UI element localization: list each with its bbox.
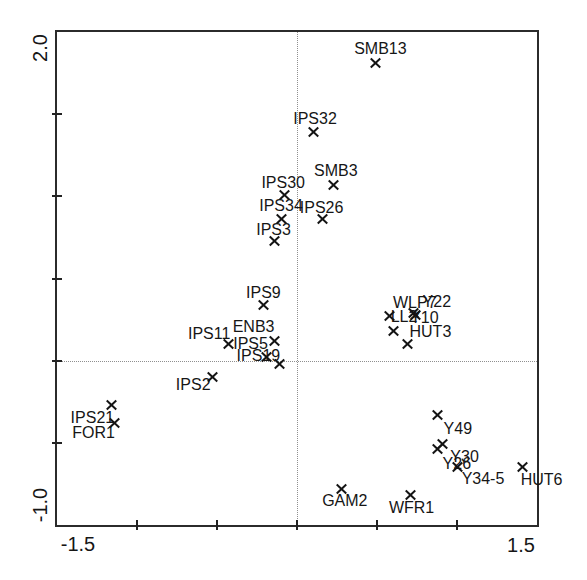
x-marker-icon (402, 339, 413, 350)
x-marker-icon (410, 309, 421, 320)
x-marker-icon (328, 179, 339, 190)
x-axis-tick (376, 520, 378, 530)
origin-vertical-dotted-line (297, 32, 298, 525)
x-axis-tick (296, 520, 298, 530)
x-marker-icon (106, 400, 117, 411)
data-point-label: ENB3 (233, 319, 275, 335)
data-point-label: Y49 (444, 421, 472, 437)
x-marker-icon (370, 58, 381, 69)
x-axis-tick (136, 520, 138, 530)
y-axis-tick (52, 360, 62, 362)
x-marker-icon (258, 299, 269, 310)
x-marker-icon (336, 483, 347, 494)
data-point-label: Y22 (423, 294, 451, 310)
y-axis-tick (52, 113, 62, 115)
x-marker-icon (432, 409, 443, 420)
x-marker-icon (384, 311, 395, 322)
data-point-label: IPS34 (259, 198, 303, 214)
x-marker-icon (432, 444, 443, 455)
scatter-plot-figure: SMB13 IPS32 SMB3 IPS30 IPS34 IPS26 IPS3 … (0, 0, 587, 580)
y-axis-tick (52, 278, 62, 280)
data-point-label: WFR1 (389, 500, 434, 516)
x-marker-icon (261, 352, 272, 363)
y-axis-tick (52, 195, 62, 197)
x-marker-icon (279, 189, 290, 200)
plot-frame: SMB13 IPS32 SMB3 IPS30 IPS34 IPS26 IPS3 … (55, 30, 539, 527)
data-point-label: IPS32 (293, 111, 337, 127)
x-axis-tick (456, 520, 458, 530)
data-point-label: GAM2 (322, 493, 367, 509)
data-point-label: SMB3 (314, 163, 358, 179)
x-marker-icon (274, 358, 285, 369)
x-marker-icon (517, 462, 528, 473)
x-marker-icon (269, 235, 280, 246)
y-axis-min-label: -1.0 (30, 488, 50, 522)
x-marker-icon (223, 339, 234, 350)
x-marker-icon (276, 214, 287, 225)
x-axis-max-label: 1.5 (507, 535, 535, 555)
x-marker-icon (317, 214, 328, 225)
x-marker-icon (207, 372, 218, 383)
data-point-label: HUT6 (521, 472, 563, 488)
x-marker-icon (388, 326, 399, 337)
x-axis-min-label: -1.5 (61, 534, 95, 554)
x-marker-icon (405, 490, 416, 501)
x-marker-icon (452, 462, 463, 473)
data-point-label: IPS2 (176, 377, 211, 393)
y-axis-max-label: 2.0 (30, 34, 50, 62)
origin-horizontal-dotted-line (57, 361, 537, 362)
x-marker-icon (109, 418, 120, 429)
data-point-label: SMB13 (354, 41, 406, 57)
data-point-label: Y34-5 (462, 471, 505, 487)
x-axis-tick (216, 520, 218, 530)
data-point-label: HUT3 (410, 324, 452, 340)
x-marker-icon (308, 127, 319, 138)
y-axis-tick (52, 442, 62, 444)
x-marker-icon (269, 335, 280, 346)
